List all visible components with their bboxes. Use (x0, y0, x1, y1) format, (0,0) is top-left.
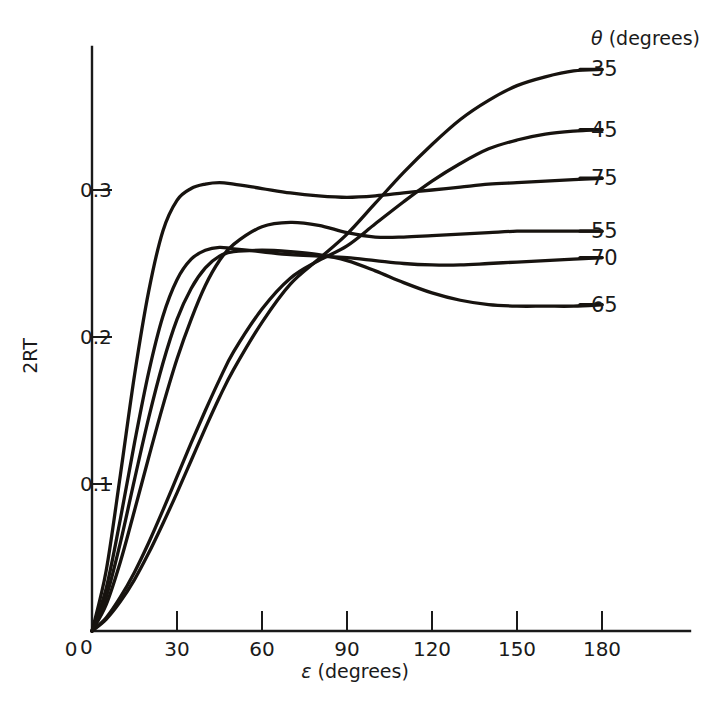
y-axis-title: 2RT (19, 338, 41, 374)
series-label-theta-45: 45 (591, 118, 618, 142)
legend-title-unit: (degrees) (609, 27, 700, 49)
x-axis-title-unit: (degrees) (318, 660, 409, 682)
series-label-theta-65: 65 (591, 293, 618, 317)
x-axis-title: ε (degrees) (301, 660, 409, 682)
x-axis-ticks (177, 611, 602, 631)
x-tick-label-60: 60 (249, 637, 274, 661)
curve-theta-55 (92, 222, 602, 631)
x-tick-label-90: 90 (334, 637, 359, 661)
x-tick-label-0: 0 (65, 637, 78, 661)
curve-theta-35 (92, 69, 602, 631)
data-curves (92, 69, 602, 631)
series-label-theta-70: 70 (591, 246, 618, 270)
curve-theta-45 (92, 130, 602, 631)
x-tick-label-30: 30 (164, 637, 189, 661)
chart-figure: θ (degrees) ε (degrees) 2RT 030609012015… (0, 0, 711, 701)
series-label-theta-75: 75 (591, 166, 618, 190)
series-label-theta-55: 55 (591, 219, 618, 243)
x-tick-label-120: 120 (413, 637, 451, 661)
legend-title: θ (degrees) (591, 27, 700, 49)
x-tick-label-180: 180 (583, 637, 621, 661)
plot-canvas (0, 0, 711, 701)
curve-theta-65 (92, 250, 602, 631)
series-label-theta-35: 35 (591, 57, 618, 81)
x-tick-label-150: 150 (498, 637, 536, 661)
